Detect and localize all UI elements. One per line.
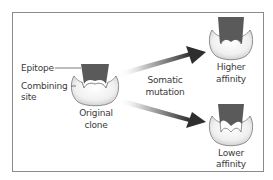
epitope-label: Epitope — [21, 63, 54, 74]
combining-site-label-line1: Combining — [21, 81, 68, 92]
somatic-mutation-label-line2: mutation — [140, 87, 190, 98]
lower-affinity-label-line2: affinity — [209, 159, 253, 170]
higher-affinity-label-line1: Higher — [209, 62, 253, 73]
lower-affinity-label-line1: Lower — [209, 148, 253, 159]
higher-affinity-label-line2: affinity — [209, 74, 253, 85]
combining-site-label-line2: site — [21, 92, 36, 103]
lower-affinity-epitope-icon — [218, 104, 244, 126]
somatic-mutation-label-line1: Somatic — [140, 75, 190, 86]
original-clone-label-line1: Original — [74, 108, 118, 119]
arrow-to-higher-affinity-icon — [118, 46, 206, 77]
higher-affinity-epitope-icon — [218, 17, 244, 44]
original-epitope-icon — [81, 64, 109, 84]
original-clone-label-line2: clone — [74, 120, 118, 131]
arrow-to-lower-affinity-icon — [118, 98, 206, 128]
